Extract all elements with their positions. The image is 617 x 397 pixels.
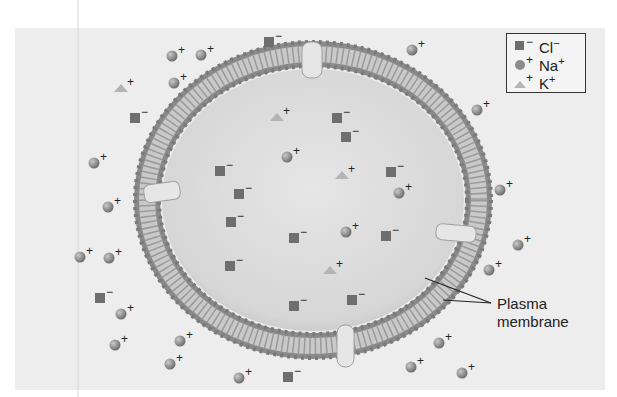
svg-text:+: + [186, 328, 193, 342]
plasma-membrane-label: Plasma membrane [497, 295, 569, 331]
svg-text:+: + [293, 144, 300, 158]
svg-text:+: + [180, 70, 187, 84]
legend-item-potassium: + K+ [513, 73, 555, 91]
legend: − Cl− + Na+ + K+ [506, 33, 586, 93]
svg-text:+: + [348, 162, 355, 176]
svg-text:+: + [405, 180, 412, 194]
svg-text:−: − [226, 158, 233, 172]
svg-text:−: − [275, 29, 282, 43]
svg-text:+: + [418, 37, 425, 51]
svg-text:+: + [283, 104, 290, 118]
potassium-triangle-icon: + [513, 73, 539, 91]
svg-text:−: − [343, 105, 350, 119]
svg-text:+: + [524, 232, 531, 246]
svg-text:+: + [207, 42, 214, 56]
svg-text:−: − [106, 285, 113, 299]
svg-text:+: + [86, 244, 93, 258]
svg-text:+: + [417, 354, 424, 368]
svg-text:−: − [236, 253, 243, 267]
chloride-square-icon: − [513, 37, 539, 55]
svg-text:+: + [115, 245, 122, 259]
legend-label-potassium: K [539, 75, 549, 92]
sodium-sphere-icon: + [513, 55, 539, 73]
svg-text:+: + [352, 219, 359, 233]
channel-right [435, 223, 476, 242]
svg-text:−: − [526, 37, 533, 49]
svg-text:−: − [352, 124, 359, 138]
svg-text:+: + [483, 97, 490, 111]
svg-text:−: − [397, 159, 404, 173]
svg-text:−: − [245, 181, 252, 195]
svg-text:+: + [127, 75, 134, 89]
svg-text:−: − [237, 209, 244, 223]
channel-bottom [337, 325, 354, 367]
svg-text:+: + [121, 332, 128, 346]
svg-text:+: + [114, 194, 121, 208]
channel-top [302, 42, 322, 78]
svg-text:+: + [336, 257, 343, 271]
legend-label-chloride: Cl [539, 39, 553, 56]
svg-text:−: − [300, 225, 307, 239]
svg-text:+: + [100, 150, 107, 164]
svg-text:+: + [468, 360, 475, 374]
legend-item-sodium: + Na+ [513, 55, 565, 73]
svg-text:+: + [495, 257, 502, 271]
svg-text:+: + [445, 330, 452, 344]
svg-text:+: + [178, 43, 185, 57]
cell-interior [162, 69, 464, 331]
svg-text:+: + [506, 177, 513, 191]
svg-text:+: + [526, 73, 533, 85]
svg-text:+: + [176, 351, 183, 365]
svg-text:−: − [392, 223, 399, 237]
svg-text:−: − [141, 105, 148, 119]
svg-text:+: + [526, 55, 533, 67]
svg-text:−: − [358, 287, 365, 301]
legend-label-sodium: Na [539, 57, 558, 74]
svg-text:−: − [300, 293, 307, 307]
svg-text:+: + [245, 365, 252, 379]
legend-item-chloride: − Cl− [513, 37, 560, 55]
svg-text:−: − [294, 364, 301, 378]
svg-text:+: + [127, 301, 134, 315]
